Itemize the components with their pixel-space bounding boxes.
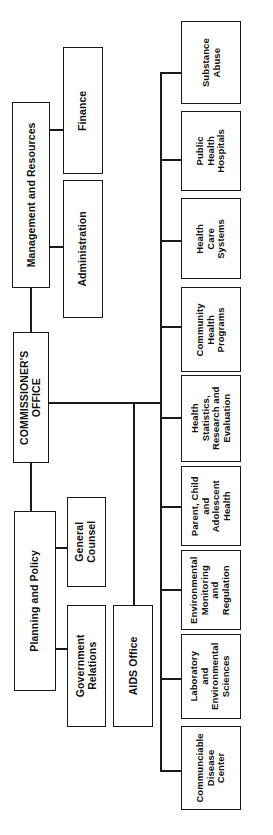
node-commissioners-office[interactable]: COMMISSIONER'S OFFICE — [13, 332, 49, 463]
connector-trunk-to-environmental-monitoring — [160, 589, 181, 591]
node-label-community-health-programs: Community Health Programs — [195, 303, 227, 356]
org-chart: Management and Resources COMMISSIONER'S … — [0, 0, 273, 835]
node-label-general-counsel: General Counsel — [75, 521, 99, 563]
node-management-and-resources[interactable]: Management and Resources — [12, 102, 50, 288]
node-aids-office[interactable]: AIDS Office — [113, 605, 153, 727]
node-environmental-monitoring-regulation[interactable]: Environmental Monitoring and Regulation — [181, 550, 241, 630]
node-health-care-systems[interactable]: Health Care Systems — [181, 198, 241, 279]
node-substance-abuse[interactable]: Substance Abuse — [181, 21, 241, 104]
node-label-commissioners-office: COMMISSIONER'S OFFICE — [19, 350, 43, 444]
node-label-government-relations: Government Relations — [75, 635, 99, 698]
node-label-aids-office: AIDS Office — [127, 637, 139, 696]
connector-mgmt-to-finance — [50, 129, 63, 131]
connector-trunk-to-public-health-hospitals — [160, 159, 181, 161]
connector-spine-upper — [30, 287, 32, 333]
node-label-communicable-disease-center: Communciable Disease Center — [195, 733, 227, 802]
node-label-health-care-systems: Health Care Systems — [195, 219, 227, 259]
node-label-finance: Finance — [77, 90, 89, 130]
node-finance[interactable]: Finance — [63, 47, 103, 174]
node-community-health-programs[interactable]: Community Health Programs — [181, 287, 241, 372]
node-laboratory-environmental-sciences[interactable]: Laboratory and Environmental Sciences — [181, 634, 241, 719]
node-label-public-health-hospitals: Public Health Hospitals — [195, 129, 227, 173]
connector-divisions-trunk — [160, 72, 162, 772]
node-label-administration: Administration — [77, 211, 89, 286]
node-label-parent-child-adolescent-health: Parent, Child and Adolescent Health — [190, 476, 233, 536]
connector-commissioner-trunk — [49, 402, 161, 404]
node-general-counsel[interactable]: General Counsel — [67, 497, 106, 587]
node-label-laboratory-environmental-sciences: Laboratory and Environmental Sciences — [190, 643, 233, 710]
node-government-relations[interactable]: Government Relations — [67, 605, 106, 727]
node-label-health-statistics-research-evaluation: Health Statistics, Research and Evaluati… — [190, 387, 233, 451]
connector-planning-to-government-relations — [56, 648, 67, 650]
connector-planning-to-general-counsel — [56, 547, 67, 549]
connector-mgmt-to-administration — [50, 246, 63, 248]
connector-trunk-to-health-statistics — [160, 417, 181, 419]
node-administration[interactable]: Administration — [63, 180, 103, 318]
node-planning-and-policy[interactable]: Planning and Policy — [14, 511, 56, 691]
node-label-substance-abuse: Substance Abuse — [200, 38, 221, 87]
connector-trunk-to-aids-office — [133, 402, 135, 630]
node-label-environmental-monitoring-regulation: Environmental Monitoring and Regulation — [190, 556, 233, 623]
connector-trunk-to-health-care-systems — [160, 240, 181, 242]
connector-trunk-to-substance-abuse — [160, 72, 181, 74]
node-communicable-disease-center[interactable]: Communciable Disease Center — [181, 726, 241, 810]
node-label-management-and-resources: Management and Resources — [25, 123, 37, 268]
connector-trunk-to-parent-child-adolescent-health — [160, 506, 181, 508]
connector-trunk-to-laboratory-environmental-sciences — [160, 678, 181, 680]
node-label-planning-and-policy: Planning and Policy — [29, 550, 41, 652]
node-public-health-hospitals[interactable]: Public Health Hospitals — [181, 111, 241, 191]
node-health-statistics-research-evaluation[interactable]: Health Statistics, Research and Evaluati… — [181, 375, 241, 462]
connector-trunk-to-community-health-programs — [160, 326, 181, 328]
connector-trunk-to-communicable-disease-center — [160, 770, 181, 772]
connector-spine-lower — [30, 462, 32, 511]
node-parent-child-adolescent-health[interactable]: Parent, Child and Adolescent Health — [181, 466, 241, 546]
